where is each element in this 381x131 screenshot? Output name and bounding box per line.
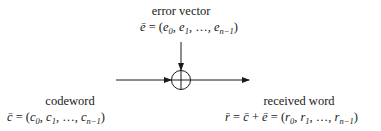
error-vector-label: error vector [145, 4, 217, 19]
received-word-label: received word [258, 94, 340, 109]
error-vector-equation: ē = (e0, e1, …, en−1) [140, 20, 238, 36]
codeword-equation: c̄ = (c0, c1, …, cn−1) [7, 110, 105, 126]
adder-icon [172, 71, 191, 90]
codeword-label: codeword [40, 94, 100, 109]
received-word-equation: r̄ = c̄ + ē = (r0, r1, …, rn−1) [225, 110, 358, 126]
